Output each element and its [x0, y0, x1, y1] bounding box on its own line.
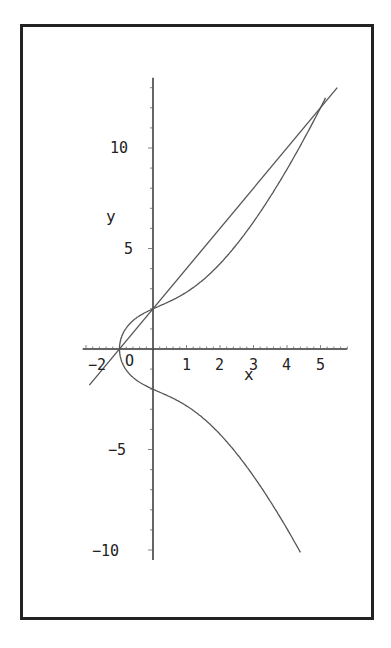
x-tick-label-1: 1 — [182, 356, 191, 374]
x-axis-label: x — [244, 365, 254, 384]
y-tick-label-neg5: −5 — [108, 441, 126, 459]
secant-line — [89, 88, 337, 385]
y-tick-label-5: 5 — [124, 240, 133, 258]
plot-area: −2 O 1 2 3 4 5 x 10 5 −5 −10 y — [0, 0, 391, 648]
x-tick-label-4: 4 — [282, 356, 291, 374]
origin-label: O — [125, 352, 134, 370]
cubic-curve — [120, 98, 326, 553]
x-tick-label-5: 5 — [316, 356, 325, 374]
y-axis-label: y — [106, 207, 116, 226]
y-tick-label-10: 10 — [110, 139, 128, 157]
x-tick-label-neg2: −2 — [88, 356, 106, 374]
axis-ticks — [86, 88, 347, 550]
y-tick-label-neg10: −10 — [92, 542, 119, 560]
x-tick-label-2: 2 — [215, 356, 224, 374]
curves — [89, 88, 337, 553]
